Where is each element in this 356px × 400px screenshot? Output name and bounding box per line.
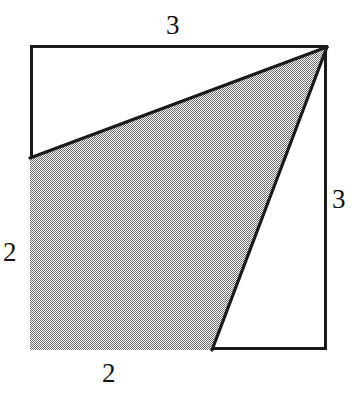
dimension-label-right: 3 (332, 186, 346, 213)
dimension-label-top: 3 (166, 12, 180, 39)
figure-canvas (0, 0, 356, 400)
shaded-quadrilateral (30, 46, 327, 350)
geometry-figure: 3 3 2 2 (0, 0, 356, 400)
dimension-label-left: 2 (3, 239, 17, 266)
dimension-label-bottom: 2 (102, 360, 116, 387)
